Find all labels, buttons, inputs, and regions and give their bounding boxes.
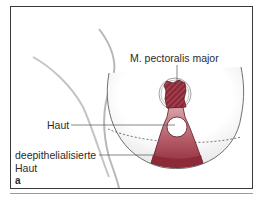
skin-island — [167, 117, 187, 137]
label-skin: Haut — [47, 119, 69, 131]
label-deepith-1: deepithelialisierte — [15, 149, 96, 161]
bottom-rule — [10, 193, 253, 194]
panel-letter: a — [15, 175, 21, 186]
label-muscle: M. pectoralis major — [130, 52, 219, 64]
figure-frame: M. pectoralis major Haut deepithelialisi… — [10, 6, 253, 189]
label-deepith-2: Haut — [15, 162, 37, 174]
pectoralis-muscle — [164, 80, 186, 108]
